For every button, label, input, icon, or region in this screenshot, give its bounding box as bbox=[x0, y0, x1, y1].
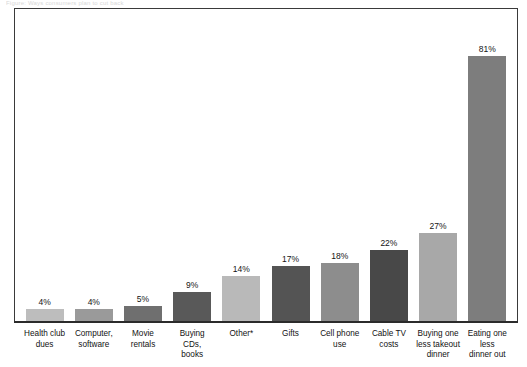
bar-value-label: 81% bbox=[479, 44, 496, 55]
bar-value-label: 5% bbox=[137, 294, 149, 305]
axis-tick-label: Gifts bbox=[269, 326, 313, 367]
bar-value-label: 9% bbox=[186, 280, 198, 291]
bar-rect[interactable] bbox=[124, 306, 162, 322]
axis-tick-label: Computer, software bbox=[72, 326, 116, 367]
bar-group[interactable]: 81% bbox=[465, 9, 509, 322]
axis-tick-label: Cable TV costs bbox=[367, 326, 411, 367]
bar-rect[interactable] bbox=[468, 56, 506, 322]
bar-group[interactable]: 18% bbox=[318, 9, 362, 322]
bar-rect[interactable] bbox=[419, 233, 457, 322]
bar-rect[interactable] bbox=[321, 263, 359, 322]
axis-tick-label: Health club dues bbox=[23, 326, 67, 367]
axis-tick-label: Other* bbox=[219, 326, 263, 367]
bar-value-label: 17% bbox=[282, 254, 299, 265]
axis-tick-label: Movie rentals bbox=[121, 326, 165, 367]
bar-value-label: 4% bbox=[88, 297, 100, 308]
bar-value-label: 22% bbox=[380, 238, 397, 249]
axis-tick-label: Cell phone use bbox=[318, 326, 362, 367]
bar-group[interactable]: 14% bbox=[219, 9, 263, 322]
bar-group[interactable]: 5% bbox=[121, 9, 165, 322]
scan-header-sliver: Figure: Ways consumers plan to cut back bbox=[6, 0, 156, 7]
bar-group[interactable]: 4% bbox=[23, 9, 67, 322]
bar-value-label: 14% bbox=[233, 264, 250, 275]
bar-group[interactable]: 27% bbox=[416, 9, 460, 322]
axis-tick-label: Buying one less takeout dinner bbox=[416, 326, 460, 367]
bar-rect[interactable] bbox=[222, 276, 260, 322]
bar-rect[interactable] bbox=[272, 266, 310, 322]
bar-group[interactable]: 22% bbox=[367, 9, 411, 322]
category-axis-line bbox=[14, 321, 518, 323]
bar-group[interactable]: 9% bbox=[170, 9, 214, 322]
bar-rect[interactable] bbox=[173, 292, 211, 322]
axis-tick-label: Eating one less dinner out bbox=[465, 326, 509, 367]
bar-rect[interactable] bbox=[370, 250, 408, 322]
bar-value-label: 4% bbox=[38, 297, 50, 308]
bar-group[interactable]: 17% bbox=[269, 9, 313, 322]
bar-plot-area: 4%4%5%9%14%17%18%22%27%81% bbox=[14, 9, 518, 322]
category-axis-labels: Health club duesComputer, softwareMovie … bbox=[14, 326, 518, 367]
bar-group[interactable]: 4% bbox=[72, 9, 116, 322]
bar-value-label: 18% bbox=[331, 251, 348, 262]
bar-value-label: 27% bbox=[430, 221, 447, 232]
axis-tick-label: Buying CDs, books bbox=[170, 326, 214, 367]
